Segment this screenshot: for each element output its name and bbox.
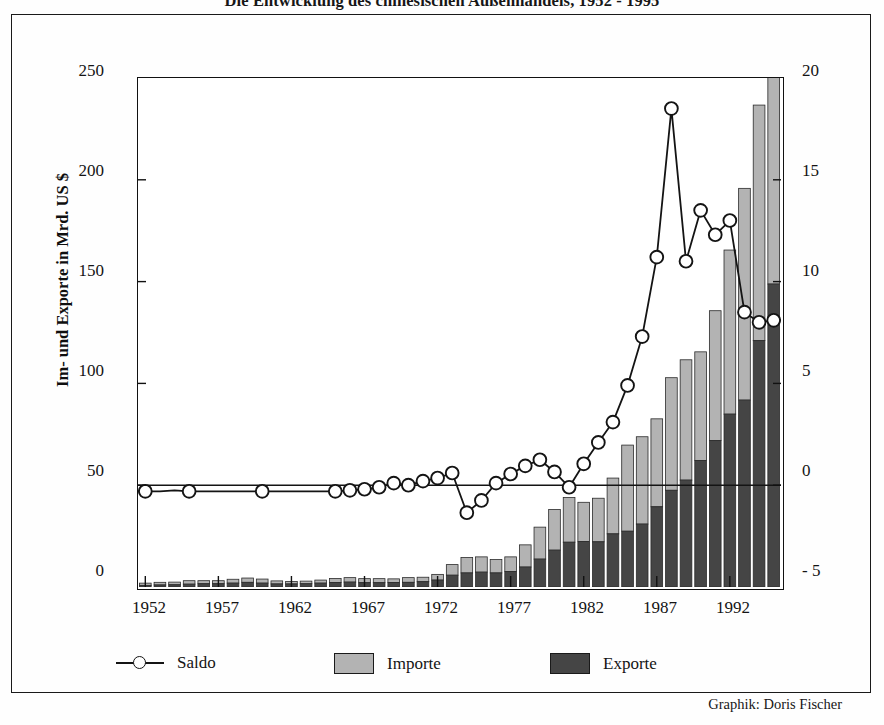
saldo-marker <box>563 481 576 494</box>
bar-importe <box>505 557 517 572</box>
saldo-marker <box>329 485 342 498</box>
bar-exporte <box>549 550 561 587</box>
bar-importe <box>388 579 400 583</box>
saldo-marker <box>475 494 488 507</box>
plot-area <box>137 77 784 590</box>
bar-importe <box>666 378 678 491</box>
saldo-marker <box>504 468 517 481</box>
line-marker-icon <box>116 656 164 670</box>
y-tick-left-100: 100 <box>79 361 105 381</box>
bar-importe <box>651 419 663 507</box>
bar-exporte <box>271 584 283 587</box>
saldo-marker <box>402 479 415 492</box>
exporte-swatch-icon <box>550 653 590 674</box>
bar-importe <box>242 578 254 582</box>
bar-exporte <box>666 490 678 587</box>
saldo-marker <box>548 466 561 479</box>
bar-importe <box>578 502 590 541</box>
bar-exporte <box>461 573 473 587</box>
x-tick-1962: 1962 <box>278 598 312 618</box>
x-tick-1977: 1977 <box>497 598 531 618</box>
bar-exporte <box>198 584 210 587</box>
saldo-marker <box>344 484 357 497</box>
bar-importe <box>417 577 429 581</box>
legend-item-importe[interactable]: Importe <box>334 653 441 674</box>
chart-credit: Graphik: Doris Fischer <box>708 696 842 713</box>
saldo-marker <box>519 459 532 472</box>
saldo-marker <box>694 204 707 217</box>
saldo-marker <box>621 379 634 392</box>
legend-label-exporte: Exporte <box>603 654 657 674</box>
bar-exporte <box>183 584 195 587</box>
x-tick-1967: 1967 <box>351 598 385 618</box>
legend-item-exporte[interactable]: Exporte <box>550 653 657 674</box>
y-tick-left-250: 250 <box>79 61 105 81</box>
saldo-marker <box>636 330 649 343</box>
bar-importe <box>344 578 356 582</box>
bar-importe <box>768 78 780 284</box>
bar-exporte <box>315 583 327 587</box>
legend-item-saldo[interactable]: Saldo <box>116 653 216 673</box>
saldo-line <box>145 109 773 513</box>
bar-exporte <box>373 583 385 587</box>
x-tick-1982: 1982 <box>570 598 604 618</box>
bar-importe <box>256 579 268 583</box>
bar-exporte <box>446 575 458 587</box>
bar-exporte <box>563 542 575 587</box>
x-tick-1992: 1992 <box>716 598 750 618</box>
saldo-marker <box>680 255 693 268</box>
bar-exporte <box>739 400 751 587</box>
chart-frame: 250 200 150 100 50 0 20 15 10 5 0 - 5 Im… <box>11 14 871 693</box>
bar-importe <box>622 445 634 531</box>
bar-importe <box>315 580 327 583</box>
bar-exporte <box>695 461 707 587</box>
x-tick-1952: 1952 <box>132 598 166 618</box>
saldo-marker <box>183 485 196 498</box>
saldo-marker <box>767 314 780 327</box>
saldo-marker <box>607 416 620 429</box>
bar-exporte <box>329 583 341 587</box>
bar-exporte <box>242 582 254 587</box>
bar-importe <box>753 105 765 341</box>
bar-importe <box>227 579 239 583</box>
saldo-marker <box>490 477 503 490</box>
bar-exporte <box>476 572 488 587</box>
saldo-marker <box>460 506 473 519</box>
saldo-marker <box>709 228 722 241</box>
x-tick-1957: 1957 <box>205 598 239 618</box>
bar-exporte <box>227 583 239 587</box>
bar-exporte <box>753 341 765 587</box>
x-tick-1987: 1987 <box>643 598 677 618</box>
bar-exporte <box>622 531 634 587</box>
bar-exporte <box>592 542 604 587</box>
bar-exporte <box>768 284 780 587</box>
saldo-marker <box>139 485 152 498</box>
y-tick-right-5: 5 <box>802 361 811 381</box>
bar-importe <box>534 527 546 559</box>
bar-importe <box>592 498 604 542</box>
bar-importe <box>739 188 751 400</box>
bar-exporte <box>169 585 181 587</box>
bar-exporte <box>417 582 429 587</box>
y-axis-label-left: Im- und Exporte in Mrd. US $ <box>53 173 73 387</box>
bar-importe <box>607 478 619 534</box>
chart-title: Die Entwicklung des chinesischen Außenha… <box>0 0 884 11</box>
bar-exporte <box>636 524 648 587</box>
chart-page: Die Entwicklung des chinesischen Außenha… <box>0 0 884 725</box>
bar-importe <box>490 560 502 573</box>
saldo-marker <box>358 483 371 496</box>
saldo-marker <box>256 485 269 498</box>
bar-importe <box>403 578 415 583</box>
bar-importe <box>198 581 210 584</box>
bar-exporte <box>490 573 502 587</box>
bar-importe <box>563 497 575 542</box>
y-tick-right-15: 15 <box>802 161 819 181</box>
saldo-marker <box>753 316 766 329</box>
legend-label-importe: Importe <box>387 654 441 674</box>
bar-importe <box>373 579 385 583</box>
y-tick-left-150: 150 <box>79 261 105 281</box>
saldo-marker <box>738 306 751 319</box>
saldo-marker <box>665 102 678 115</box>
bar-importe <box>680 360 692 480</box>
bar-importe <box>519 545 531 567</box>
